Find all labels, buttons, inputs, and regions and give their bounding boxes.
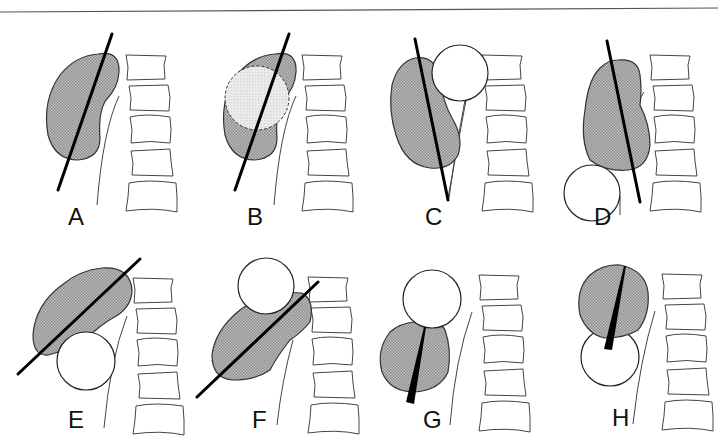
panel-label-b: B [247, 203, 263, 230]
spine [662, 274, 713, 431]
top-rule [0, 8, 718, 12]
panel-label-c: C [425, 203, 442, 230]
panel-h: H [579, 265, 713, 431]
panel-label-a: A [68, 203, 84, 230]
spine [126, 55, 177, 212]
panel-f: F [197, 258, 359, 434]
mass [57, 332, 115, 390]
mass [238, 258, 294, 314]
spine [479, 275, 530, 432]
panel-d: D [564, 41, 701, 230]
panel-label-d: D [594, 203, 611, 230]
panel-e: E [18, 259, 184, 435]
mass [564, 165, 620, 221]
spine [133, 278, 184, 435]
psoas-line [450, 312, 472, 425]
spine [308, 277, 359, 434]
spine [302, 55, 353, 212]
figure-canvas: A B C D E [0, 0, 718, 446]
panel-label-g: G [423, 406, 442, 433]
mass [432, 45, 488, 101]
spine [650, 55, 701, 212]
kidney [583, 60, 650, 170]
central-lesion [225, 66, 289, 130]
panel-a: A [47, 34, 178, 230]
kidney [47, 53, 120, 160]
panel-b: B [224, 34, 354, 230]
panel-label-h: H [612, 404, 629, 431]
panel-c: C [391, 39, 533, 230]
panel-label-e: E [68, 406, 84, 433]
panel-g: G [380, 270, 530, 433]
spine [482, 55, 533, 212]
mass [403, 270, 461, 328]
panel-label-f: F [252, 406, 267, 433]
